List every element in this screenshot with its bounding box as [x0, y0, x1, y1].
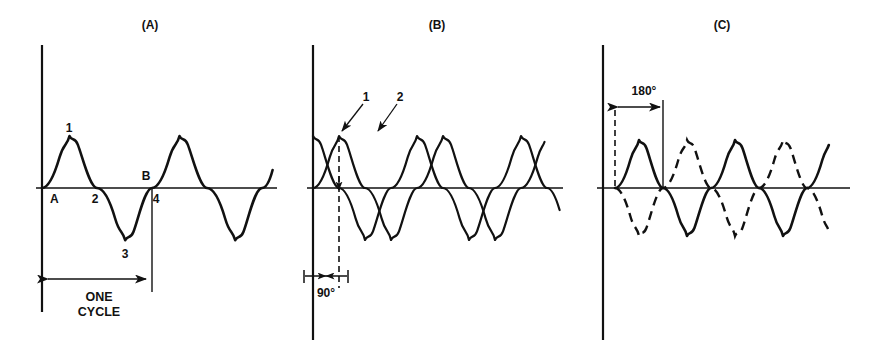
- panel-b-label-1: 1: [363, 90, 370, 104]
- panel-b-label-2: 2: [397, 90, 404, 104]
- panel-a-label-1: 1: [66, 121, 73, 135]
- panel-b-90-degree-label: 90°: [317, 286, 335, 300]
- leader-line-2: [378, 104, 397, 131]
- panel-b-90-degree-dimension: 90°: [304, 270, 348, 300]
- leader-line-1: [342, 104, 363, 131]
- panel-a-title: (A): [142, 18, 159, 32]
- figure-root: (A) A 1 2 3 4 B ONE CYCLE: [0, 0, 877, 358]
- panel-c-title: (C): [714, 18, 731, 32]
- panel-b-leader-2: 2: [378, 90, 404, 131]
- panel-c-180-degree-label: 180°: [632, 84, 657, 98]
- waveform-diagram: (A) A 1 2 3 4 B ONE CYCLE: [0, 0, 877, 358]
- one-cycle-label-line1: ONE: [85, 290, 112, 304]
- panel-a-label-a: A: [50, 192, 59, 206]
- panel-c: (C) 180°: [597, 18, 850, 339]
- panel-a-label-b: B: [142, 169, 151, 183]
- panel-c-180-degree-dimension: 180°: [618, 84, 660, 107]
- panel-b-title: (B): [429, 18, 446, 32]
- panel-a-label-4: 4: [153, 192, 160, 206]
- panel-a: (A) A 1 2 3 4 B ONE CYCLE: [36, 18, 277, 319]
- one-cycle-label-line2: CYCLE: [78, 305, 120, 319]
- panel-b: (B) 1 2: [304, 18, 563, 339]
- panel-a-one-cycle-dimension: ONE CYCLE: [48, 279, 146, 319]
- panel-a-label-2: 2: [92, 192, 99, 206]
- panel-a-label-3: 3: [122, 247, 129, 261]
- panel-b-leader-1: 1: [342, 90, 370, 131]
